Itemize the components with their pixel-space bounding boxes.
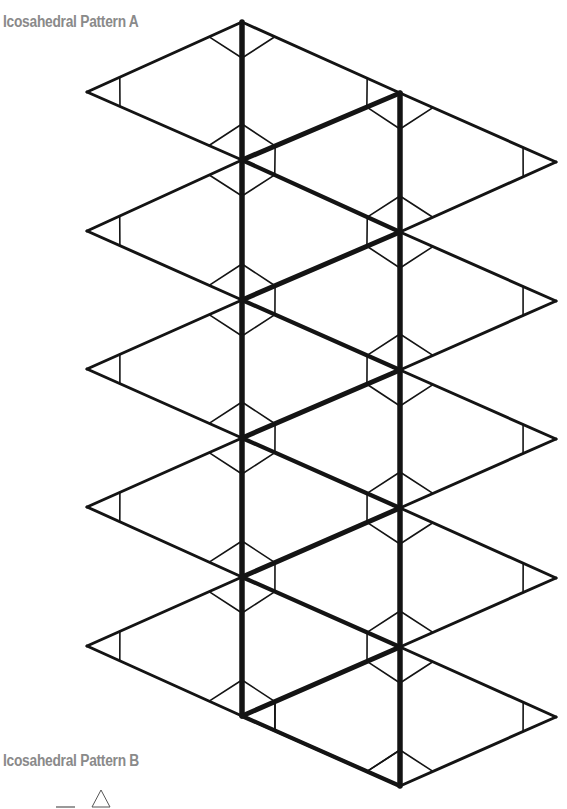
corner-mark: [242, 37, 275, 58]
corner-mark: [242, 264, 275, 286]
outer-edge: [400, 232, 556, 301]
corner-mark: [367, 246, 400, 268]
fold-edge: [242, 438, 400, 508]
outer-edge: [87, 231, 242, 300]
outer-edge: [400, 93, 556, 162]
fold-edge: [242, 300, 400, 370]
corner-mark: [400, 108, 433, 129]
corner-mark: [400, 523, 433, 544]
corner-mark: [400, 247, 433, 268]
outer-edge: [242, 22, 400, 93]
corner-mark: [242, 175, 275, 196]
corner-mark: [367, 196, 400, 217]
pattern-b-title: Icosahedral Pattern B: [3, 752, 139, 770]
corner-mark: [242, 680, 275, 702]
outer-edge: [87, 92, 242, 160]
corner-mark: [400, 662, 433, 683]
outer-edge: [400, 301, 556, 370]
outer-edge: [400, 578, 556, 647]
fold-edge: [242, 370, 400, 438]
corner-mark: [242, 541, 275, 563]
outer-edge: [400, 647, 556, 717]
outer-edge: [87, 22, 242, 92]
outer-edge: [87, 438, 242, 507]
triangle-icon: [90, 789, 112, 809]
corner-mark: [209, 175, 242, 196]
corner-mark: [242, 124, 275, 146]
fold-edge: [242, 160, 400, 232]
corner-mark: [209, 124, 242, 146]
outer-edge: [87, 507, 242, 577]
outer-edge: [87, 369, 242, 438]
corner-mark: [400, 196, 433, 217]
outer-edge: [400, 439, 556, 508]
corner-mark: [209, 315, 242, 336]
corner-mark: [209, 264, 242, 285]
outer-edge: [400, 508, 556, 578]
corner-mark: [209, 541, 242, 562]
corner-mark: [242, 453, 275, 474]
corner-mark: [367, 611, 400, 632]
corner-mark: [367, 472, 400, 493]
corner-mark: [209, 680, 242, 701]
icosahedral-net-diagram: [0, 0, 567, 809]
corner-mark: [400, 385, 433, 406]
corner-mark: [242, 315, 275, 336]
corner-mark: [400, 472, 433, 493]
outer-edge: [87, 160, 242, 231]
corner-mark: [209, 592, 242, 613]
fold-edge: [242, 232, 400, 300]
corner-mark: [400, 750, 433, 771]
fold-edge: [242, 716, 400, 786]
corner-mark: [367, 107, 400, 129]
corner-mark: [209, 37, 242, 58]
corner-mark: [400, 334, 433, 355]
corner-mark: [209, 402, 242, 423]
fold-edge: [242, 577, 400, 647]
corner-mark: [367, 384, 400, 406]
corner-mark: [400, 611, 433, 632]
fold-edge: [242, 647, 400, 716]
corner-mark: [367, 334, 400, 355]
corner-mark: [367, 661, 400, 683]
outer-edge: [87, 300, 242, 369]
outer-edge: [87, 577, 242, 646]
corner-mark: [367, 522, 400, 544]
outer-edge: [400, 162, 556, 232]
corner-mark: [367, 750, 400, 771]
outer-edge: [87, 646, 242, 716]
corner-mark: [242, 402, 275, 424]
fold-edge: [242, 93, 400, 160]
corner-mark: [209, 453, 242, 474]
outer-edge: [400, 717, 556, 786]
corner-mark: [242, 592, 275, 613]
outer-edge: [400, 370, 556, 439]
fold-edge: [242, 508, 400, 577]
fold-line-icon: [55, 795, 77, 809]
